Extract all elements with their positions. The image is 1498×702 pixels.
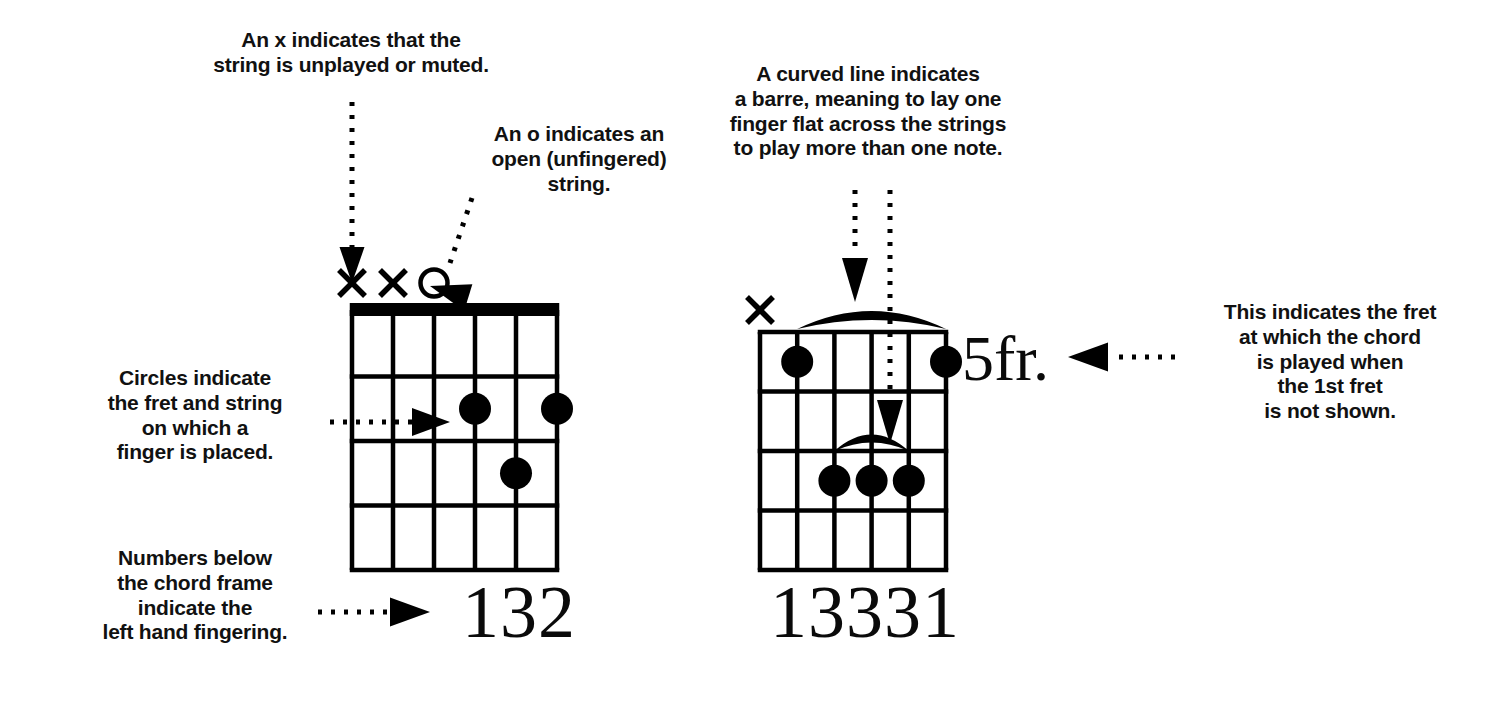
nut-bar <box>350 303 560 316</box>
finger-dot <box>781 346 813 378</box>
connector-arrows <box>318 102 1175 627</box>
finger-dot <box>459 393 491 425</box>
finger-dot <box>856 465 888 497</box>
finger-dot <box>541 393 573 425</box>
arrowhead-to-finger-dot <box>412 408 450 436</box>
chord-diagram-open <box>339 270 573 571</box>
finger-dot <box>893 465 925 497</box>
chord-diagram-barre <box>747 297 962 570</box>
finger-dot <box>818 465 850 497</box>
chord-diagram-vector-layer <box>0 0 1498 702</box>
finger-dot <box>500 457 532 489</box>
finger-dot <box>930 346 962 378</box>
arrowhead-to-outer-barre <box>842 258 868 302</box>
connector-to-o-marker <box>450 198 472 263</box>
legend-canvas: An x indicates that the string is unplay… <box>0 0 1498 702</box>
arrowhead-to-fret-label <box>1068 343 1108 372</box>
barre-curve-above-nut <box>797 311 946 329</box>
arrowhead-to-fingering-numbers <box>390 598 430 627</box>
